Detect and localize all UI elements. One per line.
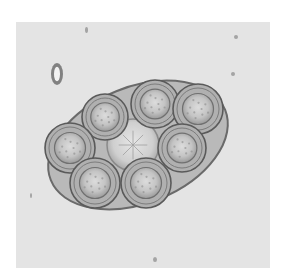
egg-packet [29,56,247,234]
debris-speck [231,72,235,76]
embryo [55,133,86,164]
embryo [183,94,214,125]
egg [70,158,120,208]
egg [131,80,179,128]
embryo [167,133,197,163]
embryo [91,103,120,132]
embryo [80,168,111,199]
debris-speck [153,257,157,262]
egg-packet-micrograph [0,0,285,279]
debris-speck [30,193,32,198]
egg [121,158,171,208]
embryo [131,168,162,199]
debris-speck [85,27,88,33]
embryo [140,89,170,119]
debris-speck [234,35,238,39]
egg [158,124,206,172]
